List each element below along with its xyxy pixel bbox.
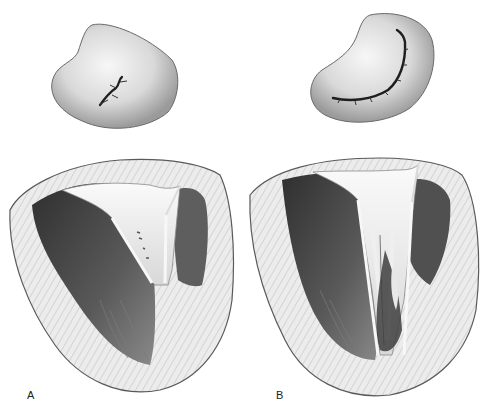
mitral-valve-illustration: A B	[0, 0, 491, 415]
valve-a-top-view	[52, 24, 178, 128]
valve-b-top-view	[311, 14, 434, 123]
panel-label-b: B	[276, 389, 283, 401]
heart-section-a	[10, 159, 234, 392]
panel-label-a: A	[27, 389, 34, 401]
heart-section-b	[250, 158, 479, 396]
